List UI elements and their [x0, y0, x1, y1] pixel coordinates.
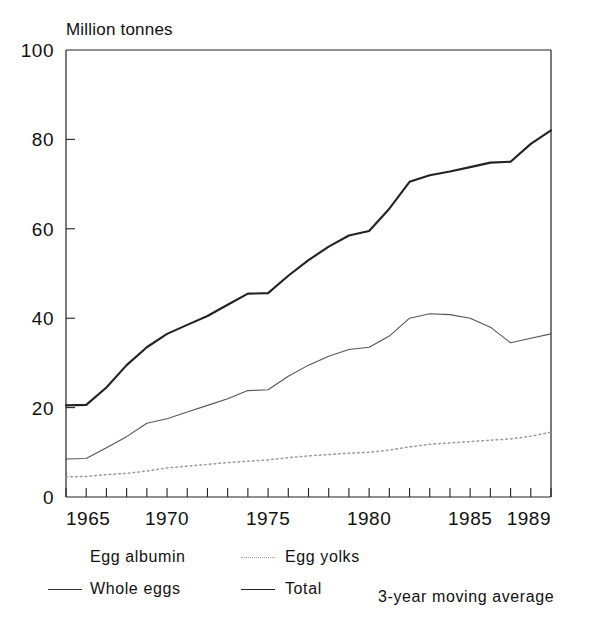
svg-text:20: 20: [32, 398, 54, 419]
svg-text:1985: 1985: [448, 508, 492, 529]
legend-swatch-total: [241, 589, 275, 590]
legend-swatch-egg-yolks: [241, 557, 275, 558]
series-line-total: [66, 130, 551, 405]
moving-average-note: 3-year moving average: [378, 588, 554, 606]
series-line-whole-eggs: [66, 314, 551, 459]
data-series-group: [66, 130, 551, 476]
chart-figure: Million tonnes 020406080100 196519701975…: [0, 0, 607, 633]
svg-text:0: 0: [43, 487, 54, 508]
y-axis-ticks: [66, 139, 75, 407]
svg-text:60: 60: [32, 219, 54, 240]
series-line-egg-yolks: [66, 432, 551, 477]
svg-text:1975: 1975: [246, 508, 290, 529]
legend-label-egg-albumin: Egg albumin: [90, 548, 186, 566]
x-axis-tick-labels: 196519701975198019851989: [66, 508, 551, 529]
x-axis-ticks: [66, 488, 551, 497]
plot-frame: [66, 50, 551, 497]
y-axis-tick-labels: 020406080100: [21, 40, 54, 508]
svg-text:40: 40: [32, 308, 54, 329]
svg-text:80: 80: [32, 129, 54, 150]
svg-text:100: 100: [21, 40, 54, 61]
legend-label-whole-eggs: Whole eggs: [90, 580, 181, 598]
svg-text:1965: 1965: [66, 508, 110, 529]
legend-swatch-whole-eggs: [48, 589, 82, 590]
line-chart-plot: 020406080100 196519701975198019851989: [0, 0, 607, 633]
svg-text:1989: 1989: [507, 508, 551, 529]
svg-text:1980: 1980: [347, 508, 391, 529]
legend-label-egg-yolks: Egg yolks: [285, 548, 360, 566]
svg-text:1970: 1970: [145, 508, 189, 529]
legend-label-total: Total: [285, 580, 322, 598]
